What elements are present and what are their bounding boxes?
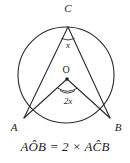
- segment-o-to-a: [24, 79, 67, 118]
- figure-caption: AÔB = 2 × AĈB: [0, 139, 130, 155]
- segment-o-to-b: [67, 79, 110, 118]
- label-point-b: B: [115, 121, 122, 133]
- label-point-a: A: [10, 121, 18, 133]
- label-point-c: C: [64, 2, 72, 14]
- geometry-figure: C A B O x 2x AÔB = 2 × AĈB: [0, 0, 130, 163]
- centre-point-dot: [65, 77, 68, 80]
- label-angle-2x: 2x: [64, 96, 73, 106]
- label-centre-o: O: [62, 64, 69, 75]
- segment-c-to-b: [68, 27, 110, 118]
- label-angle-x: x: [65, 40, 70, 50]
